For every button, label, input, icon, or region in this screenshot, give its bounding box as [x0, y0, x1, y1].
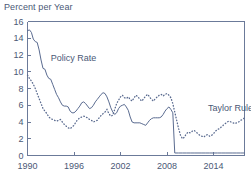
x-tick-labels-group: 19901996200220082014 [17, 152, 223, 171]
y-tick-label: 14 [13, 33, 23, 43]
y-tick-label: 16 [13, 17, 23, 27]
x-tick-label: 2002 [110, 161, 130, 171]
chart-figure: Percent per Year 0246810121416 199019962… [0, 0, 251, 179]
x-tick-label: 1990 [17, 161, 37, 171]
y-tick-label: 10 [13, 67, 23, 77]
y-tick-label: 4 [18, 117, 23, 127]
x-tick-label: 2014 [203, 161, 223, 171]
chart-plot-area: 0246810121416 19901996200220082014 Polic… [0, 0, 251, 179]
y-tick-label: 12 [13, 50, 23, 60]
series-annotation-taylor-rule: Taylor Rule [208, 103, 251, 113]
series-group [28, 30, 245, 153]
y-tick-label: 8 [18, 84, 23, 94]
series-annotation-policy-rate: Policy Rate [51, 53, 97, 63]
x-tick-label: 2008 [157, 161, 177, 171]
y-tick-label: 6 [18, 100, 23, 110]
y-tick-labels-group: 0246810121416 [13, 17, 30, 161]
y-tick-label: 2 [18, 134, 23, 144]
y-tick-label: 0 [18, 151, 23, 161]
x-tick-label: 1996 [64, 161, 84, 171]
